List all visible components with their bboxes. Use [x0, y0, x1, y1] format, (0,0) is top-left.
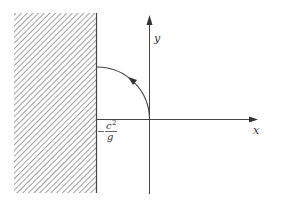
wall-label-numerator-exponent: 2 [112, 119, 116, 127]
hatched-wall-region [14, 13, 96, 193]
wall-label-denominator: g [107, 131, 113, 142]
diagram-canvas: y x c 2 g [0, 0, 284, 204]
x-axis-label: x [253, 124, 260, 137]
y-axis-label: y [153, 32, 161, 45]
trajectory-arc [97, 67, 150, 120]
x-axis-arrow-icon [249, 117, 258, 123]
y-axis-arrow-icon [147, 15, 153, 25]
